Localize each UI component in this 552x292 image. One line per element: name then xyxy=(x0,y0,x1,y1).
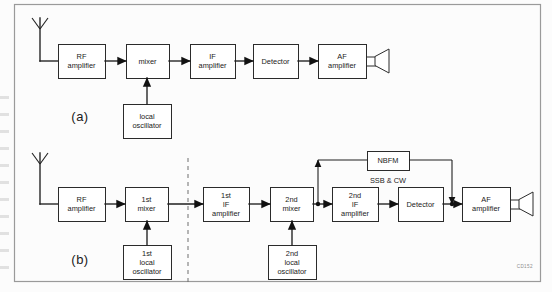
block-label-line: IF xyxy=(223,200,230,209)
block-label-line: Detector xyxy=(407,200,435,209)
panel-label-b: (b) xyxy=(71,252,88,267)
block-label-line: mixer xyxy=(137,204,156,213)
block-first-mixer-b[interactable]: 1stmixer xyxy=(126,188,169,222)
block-label-line: Detector xyxy=(262,57,290,66)
block-label-line: 1st xyxy=(142,195,152,204)
ssb-cw-label: SSB & CW xyxy=(370,176,406,185)
block-label-line: 1st xyxy=(221,191,231,200)
antenna-b xyxy=(32,153,48,204)
antenna-arm-left xyxy=(32,153,40,164)
speaker-icon-a xyxy=(367,49,390,73)
block-label-line: 2nd xyxy=(286,249,298,258)
block-label-line: amplifier xyxy=(328,61,356,70)
figure-reference-code: CD152 xyxy=(517,264,533,269)
speaker-cone xyxy=(519,192,533,216)
block-label-line: RF xyxy=(77,52,87,61)
block-label-line: amplifier xyxy=(199,61,227,70)
block-nbfm-b[interactable]: NBFM xyxy=(368,152,410,171)
block-rf-amplifier-b[interactable]: RFamplifier xyxy=(59,188,106,222)
receiver-block-diagram: RFamplifiermixerIFamplifierDetectorAFamp… xyxy=(0,0,552,292)
panel-a: RFamplifiermixerIFamplifierDetectorAFamp… xyxy=(32,18,389,139)
block-second-local-oscillator-b[interactable]: 2ndlocaloscillator xyxy=(269,246,317,280)
page-edge-artifact xyxy=(0,96,9,272)
block-detector-b[interactable]: Detector xyxy=(399,188,444,222)
speaker-cone xyxy=(375,49,389,73)
block-label-line: AF xyxy=(481,195,491,204)
block-label-line: oscillator xyxy=(132,121,162,130)
block-label-line: IF xyxy=(352,200,359,209)
block-label-line: amplifier xyxy=(472,204,500,213)
block-rf-amplifier-a[interactable]: RFamplifier xyxy=(59,45,106,79)
speaker-icon-b xyxy=(511,192,534,216)
block-label-line: amplifier xyxy=(341,209,369,218)
block-label-line: AF xyxy=(337,52,347,61)
block-second-mixer-b[interactable]: 2ndmixer xyxy=(271,188,314,222)
block-label-line: local xyxy=(139,112,155,121)
block-label-line: 2nd xyxy=(285,195,297,204)
block-if-amplifier-a[interactable]: IFamplifier xyxy=(191,45,236,79)
block-label-line: mixer xyxy=(282,204,301,213)
block-label-line: local xyxy=(284,258,300,267)
block-label-line: NBFM xyxy=(378,156,399,165)
block-local-oscillator-a[interactable]: localoscillator xyxy=(124,105,172,139)
bypass-return-junction xyxy=(450,202,454,206)
antenna-arm-left xyxy=(32,18,40,29)
block-label-line: 1st xyxy=(142,249,152,258)
block-label-line: amplifier xyxy=(68,204,96,213)
block-label-line: oscillator xyxy=(132,267,162,276)
block-second-if-amplifier-b[interactable]: 2ndIFamplifier xyxy=(333,188,379,222)
block-label-line: oscillator xyxy=(277,267,307,276)
panels-layer: RFamplifiermixerIFamplifierDetectorAFamp… xyxy=(32,18,533,285)
figure-canvas: RFamplifiermixerIFamplifierDetectorAFamp… xyxy=(0,0,552,292)
block-label-line: 2nd xyxy=(349,191,361,200)
speaker-body xyxy=(511,200,520,209)
block-af-amplifier-a[interactable]: AFamplifier xyxy=(319,45,367,79)
block-label-line: local xyxy=(139,258,155,267)
block-label-line: mixer xyxy=(138,57,157,66)
panel-b: RFamplifier1stmixer1stIFamplifier2ndmixe… xyxy=(32,152,533,286)
antenna-arm-right xyxy=(40,18,48,29)
block-mixer-a[interactable]: mixer xyxy=(127,45,170,79)
block-detector-a[interactable]: Detector xyxy=(254,45,299,79)
block-label-line: IF xyxy=(209,52,216,61)
block-af-amplifier-b[interactable]: AFamplifier xyxy=(463,188,511,222)
block-label-line: amplifier xyxy=(212,209,240,218)
antenna-a xyxy=(32,18,48,61)
block-first-local-oscillator-b[interactable]: 1stlocaloscillator xyxy=(124,246,172,280)
block-label-line: RF xyxy=(77,195,87,204)
bypass-tap-junction xyxy=(316,202,320,206)
antenna-arm-right xyxy=(40,153,48,164)
block-label-line: amplifier xyxy=(68,61,96,70)
speaker-body xyxy=(367,57,376,66)
block-first-if-amplifier-b[interactable]: 1stIFamplifier xyxy=(204,188,250,222)
panel-label-a: (a) xyxy=(71,109,88,124)
